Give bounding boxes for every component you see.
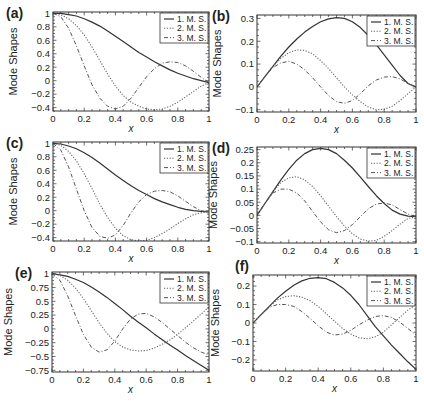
y-tick-label: 0.25 [236, 144, 255, 155]
legend-entry: 3. M. S. [177, 293, 206, 303]
y-tick-label: 0 [45, 205, 50, 216]
x-tick-label: 0 [250, 373, 255, 384]
x-tick-label: 0.6 [140, 113, 153, 124]
x-tick-label: 0.4 [312, 373, 325, 384]
x-tick-label: 0.2 [78, 243, 91, 254]
y-tick-label: −0.2 [31, 88, 50, 99]
legend: 1. M. S.2. M. S.3. M. S. [367, 148, 415, 178]
y-tick-label: 0.4 [37, 48, 50, 59]
x-tick-label: 0.4 [109, 113, 122, 124]
panel-label: (c) [6, 135, 23, 151]
y-tick-label: 0 [45, 75, 50, 86]
y-tick-label: 0.15 [236, 170, 255, 181]
x-tick-label: 0.2 [78, 113, 91, 124]
y-tick-label: 0.75 [31, 282, 50, 293]
x-tick-label: 0 [254, 245, 259, 256]
y-tick-label: 0.2 [241, 157, 254, 168]
y-tick-label: 0.2 [37, 62, 50, 73]
y-axis-label: Mode Shapes [209, 289, 221, 357]
x-axis-label: x [331, 383, 338, 394]
panel-label: (e) [15, 265, 32, 281]
chart-panel-b: (b)Mode Shapesx00.20.40.60.810.30.20.10−… [211, 8, 419, 135]
x-tick-label: 0.8 [378, 245, 391, 256]
x-axis-label: x [128, 123, 135, 134]
x-tick-label: 0.8 [171, 374, 184, 385]
chart-panel-f: (f)Mode Shapesx00.20.40.60.810.20.10−0.1… [209, 258, 419, 394]
x-axis-label: x [127, 384, 134, 395]
panel-label: (a) [6, 5, 23, 21]
y-tick-label: 0.25 [31, 309, 50, 320]
y-tick-label: 0.1 [237, 299, 250, 310]
series-line-mode-2 [257, 177, 416, 242]
y-tick-label: 0.2 [237, 280, 250, 291]
legend: 1. M. S.2. M. S.3. M. S. [160, 13, 208, 43]
legend: 1. M. S.2. M. S.3. M. S. [367, 276, 415, 306]
x-tick-label: 0.4 [314, 245, 327, 256]
y-tick-label: −0.25 [25, 337, 49, 348]
y-tick-label: 1 [45, 138, 50, 149]
x-tick-label: 0.4 [109, 243, 122, 254]
x-tick-label: 0.8 [171, 243, 184, 254]
series-line-mode-2 [257, 50, 416, 110]
y-tick-label: 0.8 [37, 21, 50, 32]
y-axis-label: Mode Shapes [207, 161, 219, 229]
x-tick-label: 0.6 [344, 373, 357, 384]
panel-label: (b) [212, 8, 230, 24]
x-tick-label: 1 [413, 114, 418, 125]
y-tick-label: 0 [245, 317, 250, 328]
chart-panel-d: (d)Mode Shapesx00.20.40.60.810.250.20.15… [207, 140, 419, 266]
y-tick-label: 0.2 [241, 36, 254, 47]
x-tick-label: 0.2 [279, 373, 292, 384]
panel-label: (d) [212, 140, 230, 156]
x-tick-label: 0.6 [140, 374, 153, 385]
y-tick-label: 0.8 [37, 151, 50, 162]
y-tick-label: −0.2 [31, 218, 50, 229]
x-tick-label: 0.4 [108, 374, 121, 385]
y-tick-label: 0 [249, 81, 254, 92]
y-tick-label: 0.4 [37, 178, 50, 189]
y-tick-label: 0 [44, 323, 49, 334]
x-axis-label: x [333, 255, 340, 266]
x-tick-label: 0 [50, 243, 55, 254]
y-tick-label: −0.1 [235, 104, 254, 115]
x-tick-label: 0.2 [282, 114, 295, 125]
x-axis-label: x [333, 124, 340, 135]
x-tick-label: 0.8 [171, 113, 184, 124]
series-line-mode-3 [253, 305, 416, 336]
y-tick-label: 0.05 [236, 197, 255, 208]
y-axis-label: Mode Shapes [211, 29, 223, 97]
x-tick-label: 0 [50, 113, 55, 124]
x-tick-label: 0 [254, 114, 259, 125]
legend-entry: 3. M. S. [177, 163, 206, 173]
legend: 1. M. S.2. M. S.3. M. S. [367, 16, 415, 46]
x-tick-label: 1 [206, 374, 211, 385]
y-tick-label: −0.4 [31, 102, 50, 113]
panel-label: (f) [235, 258, 249, 274]
y-axis-label: Mode Shapes [7, 157, 19, 225]
y-tick-label: 0.5 [36, 296, 49, 307]
x-tick-label: 1 [206, 243, 211, 254]
x-tick-label: 1 [206, 113, 211, 124]
x-axis-label: x [128, 253, 135, 264]
x-tick-label: 0.8 [378, 114, 391, 125]
y-tick-label: −0.2 [231, 354, 250, 365]
y-axis-label: Mode Shapes [7, 27, 19, 95]
y-tick-label: −0.1 [231, 336, 250, 347]
y-tick-label: 0 [249, 210, 254, 221]
y-tick-label: 0.1 [241, 183, 254, 194]
legend-entry: 3. M. S. [384, 168, 413, 178]
y-tick-label: −0.05 [230, 223, 254, 234]
x-tick-label: 0.4 [314, 114, 327, 125]
legend-entry: 3. M. S. [177, 33, 206, 43]
series-line-mode-3 [257, 61, 416, 103]
chart-panel-e: (e)Mode Shapesx00.20.40.60.8110.750.50.2… [2, 265, 212, 395]
chart-panel-a: (a)Mode Shapesx00.20.40.60.8110.80.60.40… [6, 5, 212, 134]
legend-entry: 3. M. S. [384, 296, 413, 306]
y-tick-label: 0.1 [241, 58, 254, 69]
series-line-mode-3 [257, 189, 416, 233]
x-tick-label: 0.2 [77, 374, 90, 385]
y-tick-label: 1 [45, 8, 50, 19]
y-tick-label: −0.5 [30, 351, 49, 362]
y-axis-label: Mode Shapes [2, 288, 14, 356]
x-tick-label: 0 [49, 374, 54, 385]
